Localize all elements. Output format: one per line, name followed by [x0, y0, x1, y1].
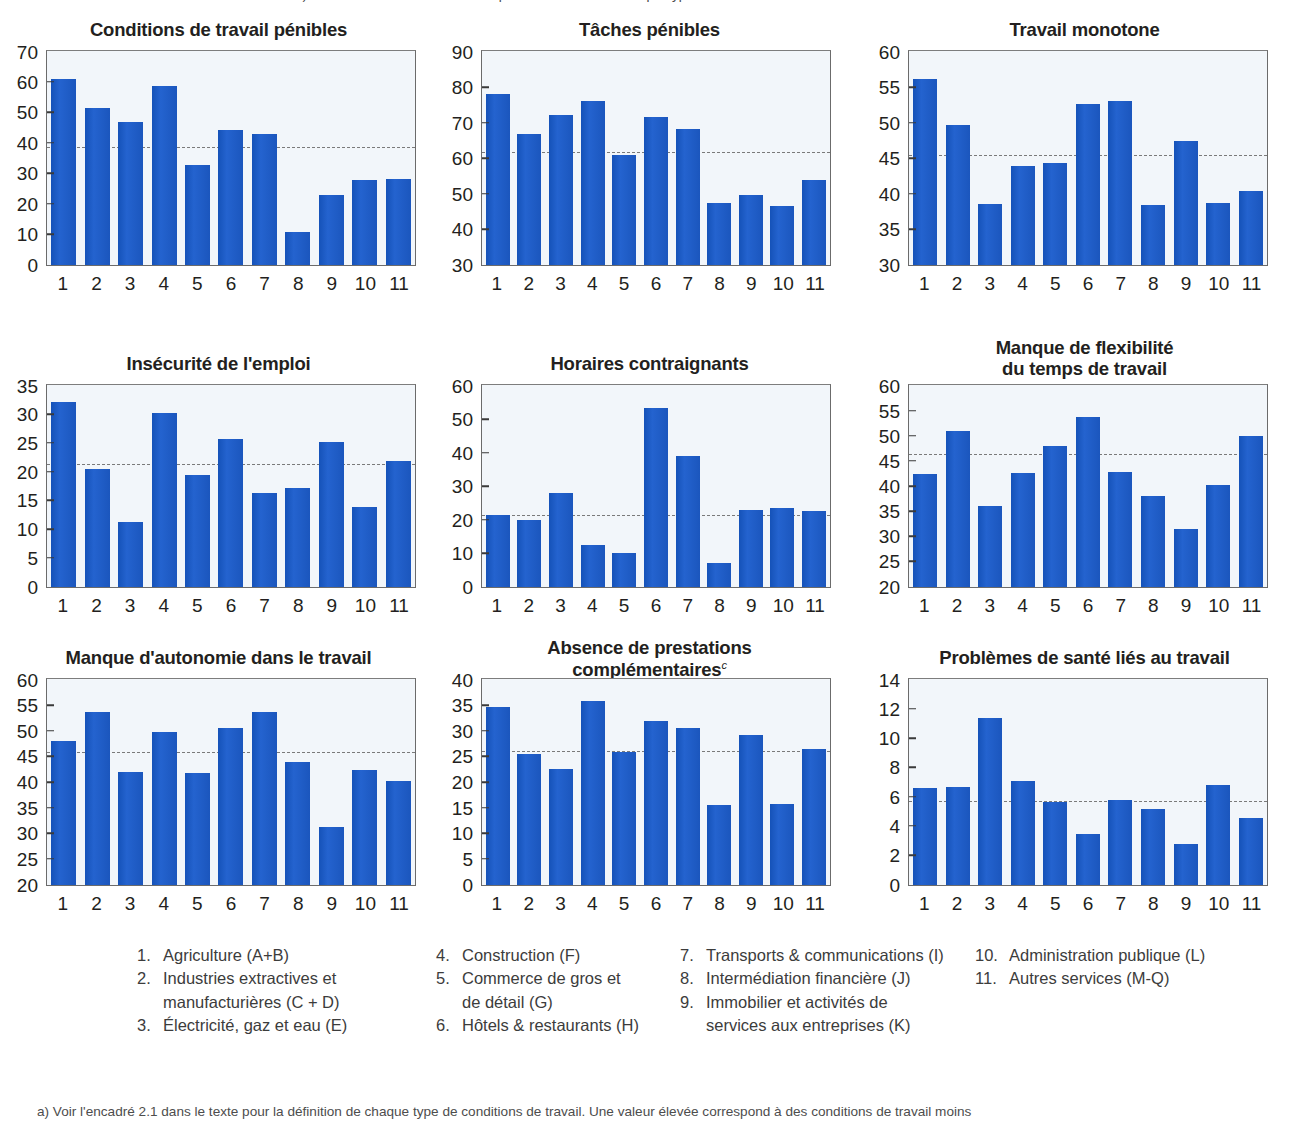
legend-item-number: 8.: [680, 967, 706, 990]
x-axis-tick-label: 1: [485, 596, 509, 615]
bar: [118, 122, 143, 265]
legend-item-number: 9.: [680, 991, 706, 1014]
y-axis-tick-mark: [909, 86, 916, 88]
y-axis-tick-mark: [909, 854, 916, 856]
x-axis-tick-label: 6: [218, 596, 243, 615]
bar: [185, 773, 210, 885]
bar: [1239, 818, 1263, 885]
legend-item-number: 10.: [975, 944, 1009, 967]
plot-area: [481, 678, 831, 886]
bar: [319, 442, 344, 587]
x-axis-tick-label: 9: [1174, 596, 1198, 615]
y-axis-tick-mark: [909, 435, 916, 437]
bar: [285, 232, 310, 265]
bar: [1076, 104, 1100, 265]
x-axis-tick-label: 1: [912, 274, 936, 293]
y-axis-tick-label: 5: [0, 548, 38, 567]
bar: [1076, 834, 1100, 885]
x-axis-tick-label: 2: [517, 274, 541, 293]
legend-item-label-continuation: services aux entreprises (K): [680, 1014, 944, 1037]
x-axis-tick-labels: 1234567891011: [481, 274, 831, 293]
bar: [1108, 800, 1132, 885]
y-axis-tick-mark: [482, 485, 489, 487]
plot-area: [481, 384, 831, 588]
y-axis-tick-label: 0: [437, 875, 473, 894]
bar: [486, 515, 510, 587]
bar: [1174, 141, 1198, 265]
bar: [612, 155, 636, 265]
y-axis-tick-mark: [47, 730, 54, 732]
bar: [285, 488, 310, 587]
x-axis-tick-label: 7: [676, 274, 700, 293]
x-axis-tick-label: 3: [118, 894, 143, 913]
y-axis-tick-mark: [47, 233, 54, 235]
x-axis-tick-label: 11: [1240, 274, 1264, 293]
x-axis-tick-label: 10: [1207, 596, 1231, 615]
bar: [676, 129, 700, 265]
chart-title: Manque de flexibilitédu temps de travail: [862, 338, 1307, 379]
bar: [644, 117, 668, 265]
y-axis-tick-mark: [909, 122, 916, 124]
y-axis-tick-label: 70: [437, 113, 473, 132]
y-axis-tick-mark: [482, 833, 489, 835]
legend-item-label-continuation: manufacturières (C + D): [137, 991, 347, 1014]
bar: [51, 402, 76, 587]
y-axis-tick-mark: [482, 756, 489, 758]
chart-panel: Conditions de travail pénibles0102030405…: [0, 14, 437, 334]
y-axis-tick-label: 50: [0, 103, 38, 122]
plot-area: [908, 50, 1268, 266]
industry-legend: 1.Agriculture (A+B)2.Industries extracti…: [0, 944, 1307, 1084]
y-axis-tick-label: 40: [437, 220, 473, 239]
bar: [152, 86, 177, 265]
y-axis-tick-label: 20: [437, 773, 473, 792]
x-axis-tick-label: 4: [1011, 596, 1035, 615]
x-axis-tick-label: 10: [771, 894, 795, 913]
bar: [1108, 101, 1132, 265]
legend-item-number: 3.: [137, 1014, 163, 1037]
cut-off-caption-strip: a) Voir l'encadré 2.1 dans le texte pour…: [0, 0, 1307, 14]
y-axis-tick-mark: [909, 157, 916, 159]
y-axis-tick-mark: [482, 122, 489, 124]
chart-title: Travail monotone: [862, 20, 1307, 41]
bar: [85, 712, 110, 885]
legend-item-number: 5.: [436, 967, 462, 990]
x-axis-tick-label: 10: [771, 274, 795, 293]
y-axis-tick-label: 50: [437, 410, 473, 429]
x-axis-tick-labels: 1234567891011: [481, 596, 831, 615]
x-axis-tick-label: 11: [1240, 894, 1264, 913]
y-axis-tick-mark: [47, 781, 54, 783]
y-axis-tick-label: 60: [437, 149, 473, 168]
y-axis-tick-label: 55: [862, 401, 900, 420]
plot-area: [46, 50, 416, 266]
y-axis-tick-label: 40: [0, 133, 38, 152]
y-axis-tick-mark: [47, 203, 54, 205]
bar: [707, 203, 731, 265]
x-axis-tick-label: 7: [1109, 596, 1133, 615]
x-axis-tick-labels: 1234567891011: [908, 894, 1268, 913]
y-axis-tick-label: 20: [437, 510, 473, 529]
chart-title: Conditions de travail pénibles: [0, 20, 437, 41]
y-axis-tick-label: 10: [862, 729, 900, 748]
legend-item-label: Électricité, gaz et eau (E): [163, 1014, 347, 1037]
bar: [285, 762, 310, 886]
bar: [218, 439, 243, 587]
y-axis-tick-mark: [909, 767, 916, 769]
x-axis-tick-label: 2: [945, 274, 969, 293]
bar: [581, 701, 605, 886]
bar: [739, 195, 763, 265]
y-axis-tick-mark: [482, 552, 489, 554]
y-axis-tick-label: 60: [437, 376, 473, 395]
y-axis-tick-mark: [909, 796, 916, 798]
y-axis-tick-label: 40: [862, 184, 900, 203]
x-axis-tick-label: 7: [676, 894, 700, 913]
x-axis-tick-labels: 1234567891011: [46, 894, 416, 913]
bar: [1206, 785, 1230, 885]
x-axis-tick-labels: 1234567891011: [46, 274, 416, 293]
bar: [581, 545, 605, 587]
bar: [549, 115, 573, 265]
bar: [549, 769, 573, 885]
x-axis-tick-label: 3: [118, 596, 143, 615]
bar-series: [482, 51, 830, 265]
bar-series: [47, 679, 415, 885]
y-axis-tick-label: 10: [437, 544, 473, 563]
